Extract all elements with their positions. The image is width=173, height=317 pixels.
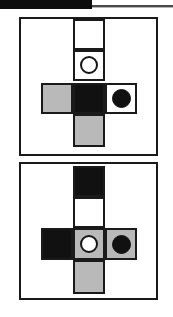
- figure-page: [0, 0, 173, 317]
- panel-bottom-cell-center: [73, 228, 105, 260]
- panel-top-stage: [21, 19, 156, 154]
- page-header: [0, 0, 173, 14]
- panel-bottom-stage: [21, 164, 156, 298]
- header-black-bar: [0, 0, 92, 9]
- panel-bottom-cell-left: [41, 228, 73, 260]
- panel-bottom-cell-top: [73, 166, 105, 197]
- panel-top-cell-left: [41, 83, 73, 114]
- diagram-panel-bottom: [19, 162, 158, 300]
- filled-circle-icon: [112, 235, 131, 254]
- panel-bottom-cell-upper-middle: [73, 197, 105, 228]
- header-rule-shadow: [92, 7, 173, 8]
- panel-bottom-cell-right: [105, 228, 137, 260]
- open-circle-icon: [80, 235, 98, 253]
- panel-top-cell-right: [105, 83, 137, 114]
- panel-top-cell-center: [73, 83, 105, 114]
- panel-top-cell-upper-middle: [73, 50, 105, 81]
- open-circle-icon: [80, 56, 98, 74]
- filled-circle-icon: [112, 89, 131, 108]
- diagram-panel-top: [19, 17, 158, 156]
- panel-bottom-cell-bottom: [73, 260, 105, 294]
- panel-top-cell-top: [73, 19, 105, 50]
- panel-top-cell-bottom: [73, 114, 105, 147]
